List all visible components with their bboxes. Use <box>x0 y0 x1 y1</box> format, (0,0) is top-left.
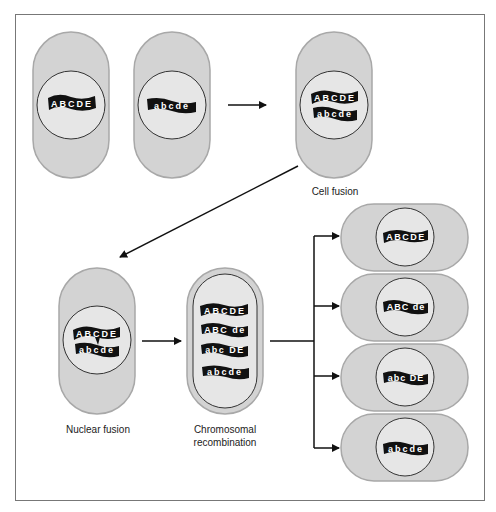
chromosome-label: abcde <box>154 101 190 111</box>
chromosome: ABCDE <box>311 90 358 104</box>
progeny-cell-3: abc DE <box>341 344 468 411</box>
chromosome-label: ABCDE <box>386 232 426 242</box>
chromosomal-recombination-label-line2: recombination <box>175 436 275 449</box>
nuclear-fusion-label: Nuclear fusion <box>50 423 146 436</box>
nuclear-fusion-cell: ABCDE abcde <box>59 268 135 414</box>
chromosome-label: abcde <box>79 345 115 355</box>
progeny-cell-4: abcde <box>341 414 468 481</box>
chromosome: abcde <box>147 98 196 113</box>
chromosome: ABCDE <box>200 303 248 316</box>
chromosome-label: abcde <box>207 367 243 377</box>
branch-arrows <box>270 236 339 448</box>
cell-fusion-cell: ABCDE abcde <box>296 32 372 178</box>
arrow-to-nuclear-fusion <box>120 166 298 257</box>
recombination-cell: ABCDE ABC de abc DE abcde <box>187 268 263 414</box>
chromosome-label: abc DE <box>205 345 245 355</box>
cell-fusion-label: Cell fusion <box>296 185 374 198</box>
chromosome-label: abcde <box>317 109 353 119</box>
progeny-cell-1: ABCDE <box>341 204 468 271</box>
chromosome-label: ABCDE <box>314 93 356 103</box>
chromosome-label: ABC de <box>387 302 426 312</box>
chromosomal-recombination-label-line1: Chromosomal <box>175 423 275 436</box>
progeny-cell-2: ABC de <box>341 274 468 341</box>
diagram-stage: ABCDE abcde ABCDE abcde ABCDE <box>0 0 496 512</box>
chromosome-label: ABC de <box>204 325 246 335</box>
parent-cell-2: abcde <box>134 32 210 178</box>
chromosome-label: ABCDE <box>204 306 246 316</box>
chromosome-label: abcde <box>388 444 424 454</box>
chromosome-label: abc DE <box>388 373 425 383</box>
chromosome-label: ABCDE <box>51 99 93 109</box>
parent-cell-1: ABCDE <box>33 32 109 178</box>
